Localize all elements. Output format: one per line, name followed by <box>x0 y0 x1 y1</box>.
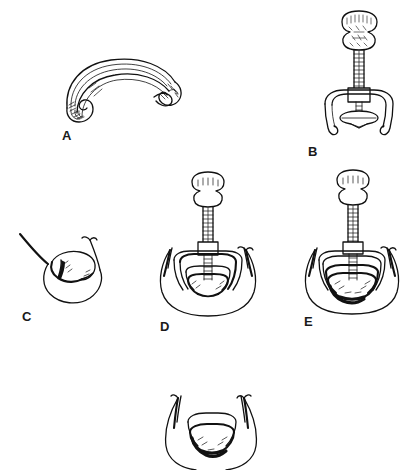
panel-a <box>55 50 190 125</box>
panel-label-a: A <box>62 129 72 142</box>
panel-f <box>148 388 276 470</box>
panel-label-e: E <box>304 315 313 328</box>
panel-d <box>148 168 276 320</box>
panel-f-drawing <box>148 388 276 470</box>
panel-b <box>312 8 407 143</box>
panel-label-d: D <box>160 320 170 333</box>
panel-b-drawing <box>312 8 407 143</box>
panel-label-b: B <box>308 145 318 158</box>
panel-d-drawing <box>148 168 276 320</box>
panel-label-c: C <box>22 310 32 323</box>
panel-a-drawing <box>55 50 190 125</box>
panel-e <box>293 166 413 316</box>
panel-c-drawing <box>12 228 127 313</box>
panel-e-drawing <box>293 166 413 316</box>
panel-c <box>12 228 127 313</box>
